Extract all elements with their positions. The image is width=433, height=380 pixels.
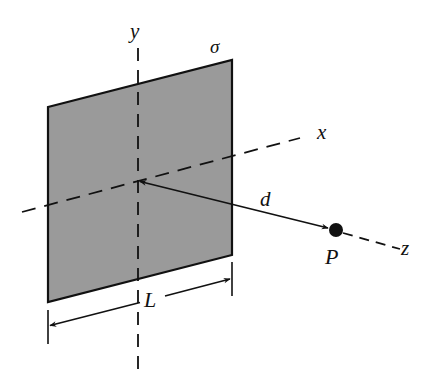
z-axis-label: z	[400, 236, 409, 260]
point-label: P	[324, 244, 338, 269]
distance-label: d	[260, 187, 271, 211]
diagram-svg: y σ x d P z L	[0, 0, 433, 380]
dimension-arrow-left	[50, 303, 140, 326]
point-p	[329, 223, 343, 237]
side-length-label: L	[143, 287, 156, 312]
diagram-canvas: y σ x d P z L	[0, 0, 433, 380]
sigma-label: σ	[210, 36, 220, 57]
y-axis-label: y	[128, 19, 140, 43]
dimension-arrow-right	[165, 279, 230, 296]
z-axis	[343, 233, 400, 249]
x-axis-label: x	[316, 120, 327, 144]
